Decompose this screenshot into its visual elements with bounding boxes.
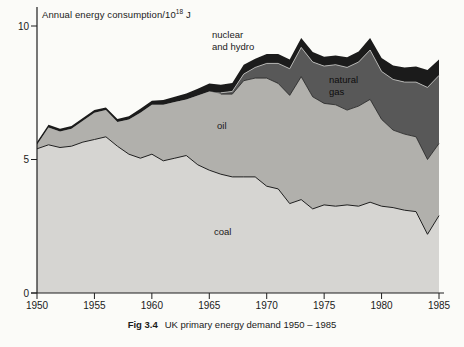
figure-caption-text: UK primary energy demand 1950 – 1985 (165, 319, 337, 330)
x-tick-label: 1970 (256, 300, 279, 311)
x-tick-label: 1950 (26, 300, 49, 311)
label-oil: oil (217, 120, 227, 132)
x-tick-label: 1960 (141, 300, 164, 311)
y-tick-label: 0 (23, 288, 29, 299)
y-tick-label: 5 (23, 154, 29, 165)
y-axis-title: Annual energy consumption/1018 J (42, 8, 191, 20)
label-coal: coal (214, 226, 231, 238)
figure-page: 051019501955196019651970197519801985 Ann… (0, 0, 464, 347)
x-tick-label: 1980 (370, 300, 393, 311)
y-axis-title-text: Annual energy consumption/10 (42, 9, 176, 20)
label-natural-gas: natural gas (329, 74, 358, 98)
figure-caption-number: Fig 3.4 (128, 319, 158, 330)
x-tick-label: 1975 (313, 300, 336, 311)
x-tick-label: 1955 (83, 300, 106, 311)
y-axis-title-unit: J (183, 9, 191, 20)
label-nuclear-and-hydro: nuclear and hydro (212, 29, 254, 53)
y-tick-label: 10 (18, 21, 30, 32)
figure-caption: Fig 3.4UK primary energy demand 1950 – 1… (0, 319, 464, 330)
x-tick-label: 1965 (198, 300, 221, 311)
x-tick-label: 1985 (428, 300, 451, 311)
